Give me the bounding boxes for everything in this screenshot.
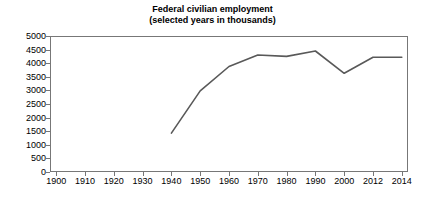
data-line-layer [0, 0, 425, 197]
series-line-federal-civilian-employment [171, 51, 401, 133]
chart-container: Federal civilian employment (selected ye… [0, 0, 425, 197]
